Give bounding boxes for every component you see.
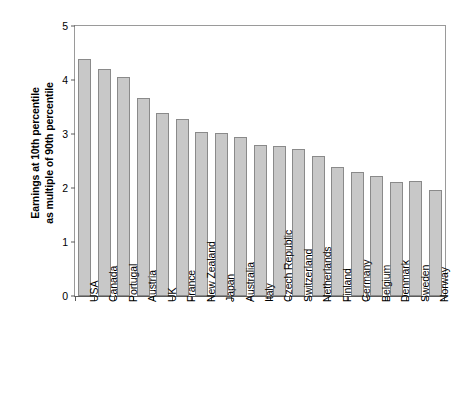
y-axis-title-line-2: as multiple of 90th percentile <box>42 82 56 224</box>
x-axis-tick-label: Belgium <box>380 265 392 302</box>
bar-item <box>176 26 189 296</box>
bar-item <box>331 26 344 296</box>
y-axis-title-line-1: Earnings at 10th percentile <box>28 87 42 219</box>
x-axis-tick-label: Germany <box>360 260 372 302</box>
x-axis-tick-label: Finland <box>341 268 353 302</box>
bar-item <box>429 26 442 296</box>
x-axis-tick-label: France <box>185 270 197 302</box>
plot-area: 012345 <box>74 25 446 297</box>
bar-item <box>409 26 422 296</box>
bar-item <box>137 26 150 296</box>
bar <box>78 59 91 296</box>
bar-item <box>117 26 130 296</box>
x-axis-tick-label: Czech Republic <box>282 230 294 302</box>
bar-item <box>254 26 267 296</box>
x-axis-labels: USACanadaPortugalAustriaUKFranceNew Zeal… <box>74 302 446 407</box>
x-axis-tick-label: Netherlands <box>321 246 333 302</box>
bar-item <box>234 26 247 296</box>
x-axis-tick-label: Switzerland <box>302 249 314 302</box>
x-axis-tick-label: Canada <box>107 266 119 302</box>
x-axis-tick-label: Austria <box>146 270 158 302</box>
x-axis-tick-label: USA <box>88 281 100 302</box>
bar-item <box>78 26 91 296</box>
bar-item <box>156 26 169 296</box>
bar <box>156 113 169 296</box>
x-axis-tick-label: Italy <box>263 283 275 302</box>
y-axis-title: Earnings at 10th percentile as multiple … <box>20 3 64 303</box>
bar-chart-figure: Earnings at 10th percentile as multiple … <box>0 0 468 407</box>
x-axis-tick-label: Sweden <box>419 265 431 302</box>
x-axis-tick-label: New Zealand <box>205 241 217 302</box>
bar-item <box>390 26 403 296</box>
x-axis-tick-label: UK <box>166 288 178 302</box>
x-axis-tick-label: Norway <box>438 267 450 302</box>
x-axis-tick-label: Portugal <box>127 264 139 302</box>
bar-item <box>370 26 383 296</box>
x-axis-tick-label: Japan <box>224 274 236 302</box>
x-axis-tick-label: Australia <box>244 262 256 302</box>
bar <box>98 69 111 296</box>
x-axis-tick-mark <box>75 296 76 301</box>
bar-series <box>75 26 445 296</box>
bar-item <box>98 26 111 296</box>
bar-item <box>351 26 364 296</box>
x-axis-tick-label: Denmark <box>399 260 411 302</box>
